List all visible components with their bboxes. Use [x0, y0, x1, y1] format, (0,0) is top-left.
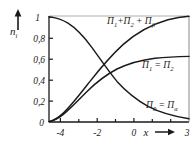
- x-tick-label: -2: [93, 128, 101, 138]
- y-axis-label: ni: [10, 25, 18, 39]
- curve-label-n0-na: Π0 = Πα: [145, 100, 178, 112]
- figure-container: ni 1 0,8 0,6 0,4 0,2 0 -4 -2 0 3 x Π1+Π2…: [0, 0, 196, 146]
- x-tick-label: 3: [184, 128, 190, 138]
- chart-svg: ni 1 0,8 0,6 0,4 0,2 0 -4 -2 0 3 x Π1+Π2…: [0, 0, 196, 146]
- y-tick-label: 0: [39, 118, 44, 128]
- x-tick-label: 0: [132, 128, 137, 138]
- x-axis-label: x: [143, 126, 149, 138]
- y-tick-label: 0,8: [33, 34, 45, 44]
- curve-label-n1-n2: Π1 = Π2: [141, 60, 174, 72]
- y-tick-labels: 1 0,8 0,6 0,4 0,2 0: [33, 13, 45, 128]
- curve-label-n1-n2-n3: Π1+Π2 + Πβ: [106, 16, 156, 28]
- y-tick-label: 0,6: [33, 55, 45, 65]
- y-axis-arrow-group: [15, 9, 22, 30]
- x-tick-label: -4: [56, 128, 64, 138]
- y-tick-label: 0,4: [33, 76, 45, 86]
- y-tick-label: 0,2: [33, 97, 45, 107]
- x-axis-arrow-group: [155, 129, 175, 135]
- y-tick-label: 1: [35, 13, 40, 23]
